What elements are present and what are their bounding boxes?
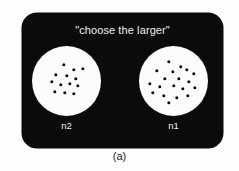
dot [54,73,57,76]
dot [148,82,151,85]
stimulus-figure: "choose the larger" n2 n1 (a) [0,0,239,171]
dot-array-left[interactable] [32,46,101,116]
dot [63,91,66,94]
dot [53,90,56,93]
dot [163,77,166,80]
dot [175,96,178,99]
instruction-text: "choose the larger" [22,24,223,36]
dot [155,69,158,72]
dot [193,86,196,89]
dot [192,72,195,75]
dot [81,67,84,70]
dot-array-right[interactable] [139,46,208,116]
dot [167,60,170,63]
array-label-left: n2 [32,120,101,131]
array-label-right: n1 [139,120,208,131]
dot [167,101,170,104]
dot [186,94,189,97]
dot [187,80,190,83]
dot [59,83,62,86]
dot [72,68,75,71]
dot [50,80,53,83]
stimulus-panel: "choose the larger" n2 n1 [22,13,223,148]
dot [179,65,182,68]
dot [76,84,79,87]
dot [62,63,65,66]
dot [158,85,161,88]
dot [74,77,77,80]
dot [162,94,165,97]
dot [185,68,188,71]
dot [65,74,68,77]
dot [172,84,175,87]
dot [68,82,71,85]
dot [177,77,180,80]
dot [171,70,174,73]
dot [151,91,154,94]
figure-caption: (a) [0,150,239,162]
dot [72,92,75,95]
dot [181,87,184,90]
